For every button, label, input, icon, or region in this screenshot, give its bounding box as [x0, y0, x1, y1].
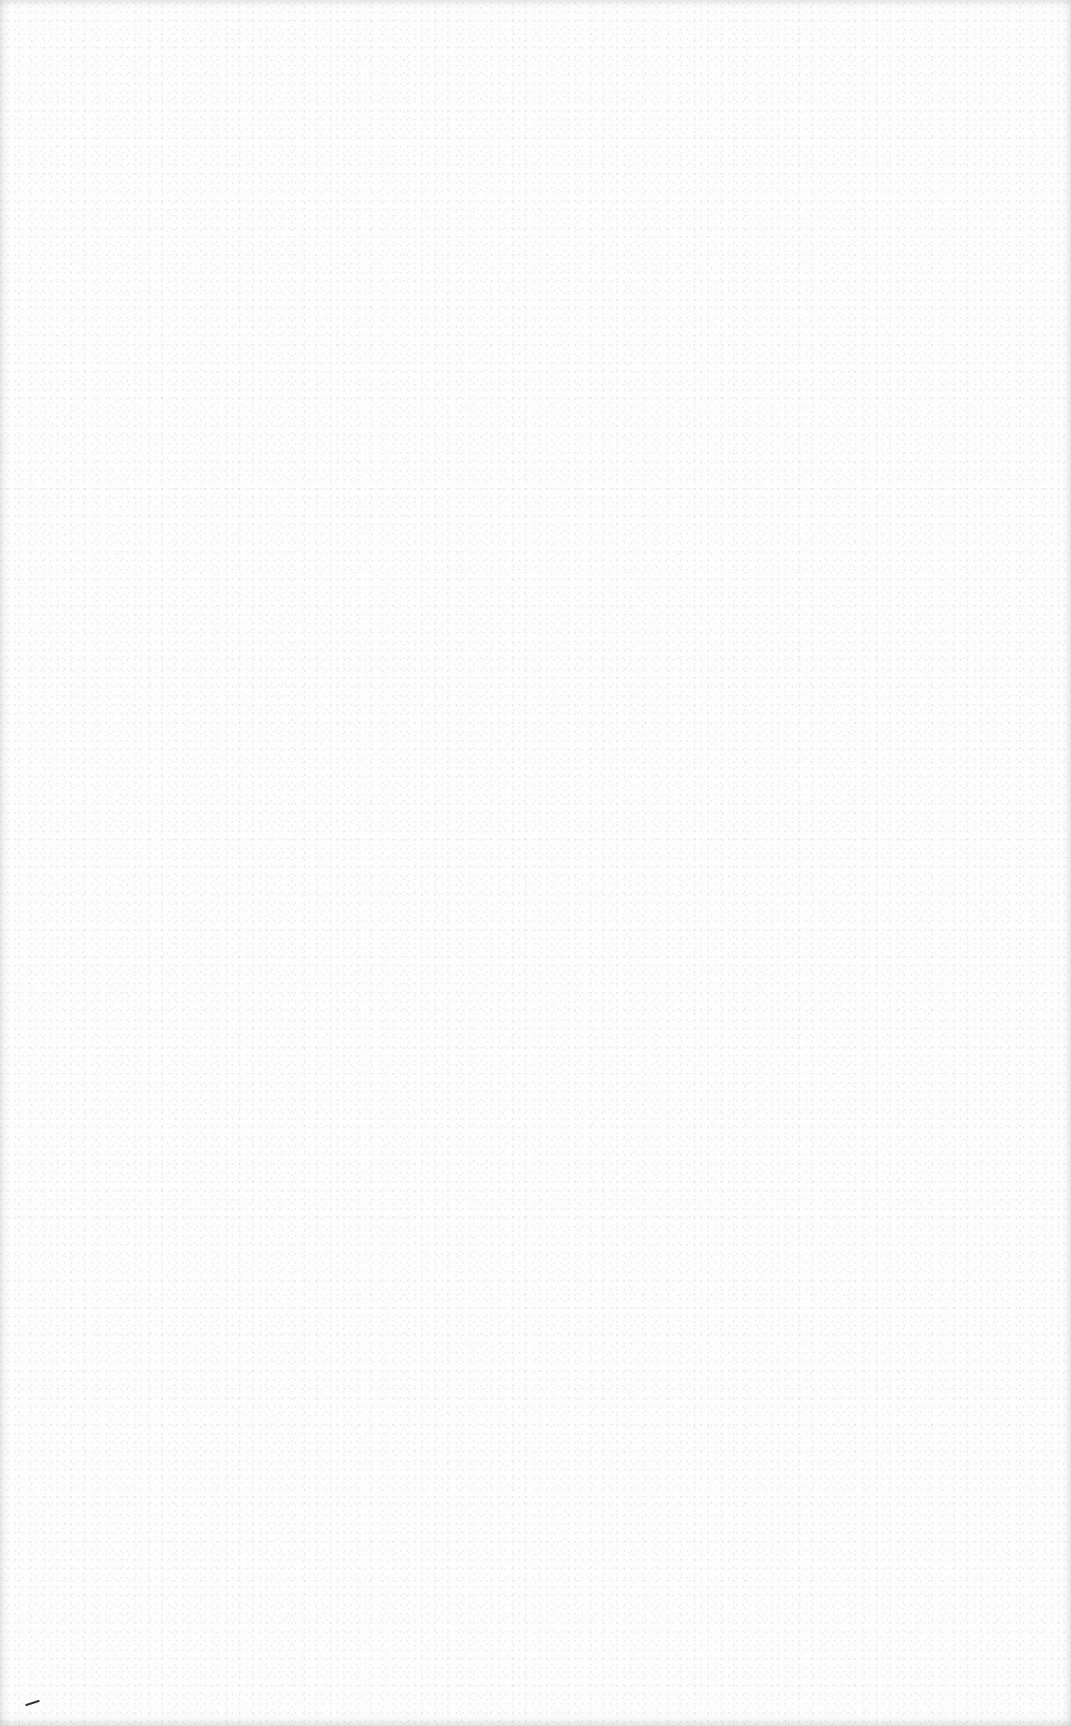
paper-texture — [0, 0, 1071, 1726]
stray-pen-mark — [25, 1700, 40, 1707]
blank-page — [0, 0, 1071, 1726]
scan-edge-shadow — [0, 0, 1071, 1726]
